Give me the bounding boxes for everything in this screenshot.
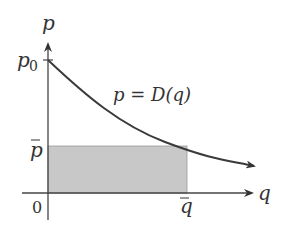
svg-text:0: 0: [29, 58, 38, 74]
y-axis-label: p: [42, 11, 55, 35]
svg-text:p: p: [30, 138, 43, 162]
curve-label: p = D(q): [113, 84, 191, 105]
demand-diagram: p q 0 p 0 p q p = D(q): [0, 0, 284, 241]
svg-text:q: q: [180, 194, 193, 218]
pbar-label: p: [30, 138, 43, 162]
revenue-rectangle: [48, 146, 187, 193]
origin-label: 0: [32, 198, 42, 217]
qbar-label: q: [180, 194, 193, 218]
p0-label: p 0: [17, 48, 38, 74]
x-axis-label: q: [258, 181, 271, 205]
